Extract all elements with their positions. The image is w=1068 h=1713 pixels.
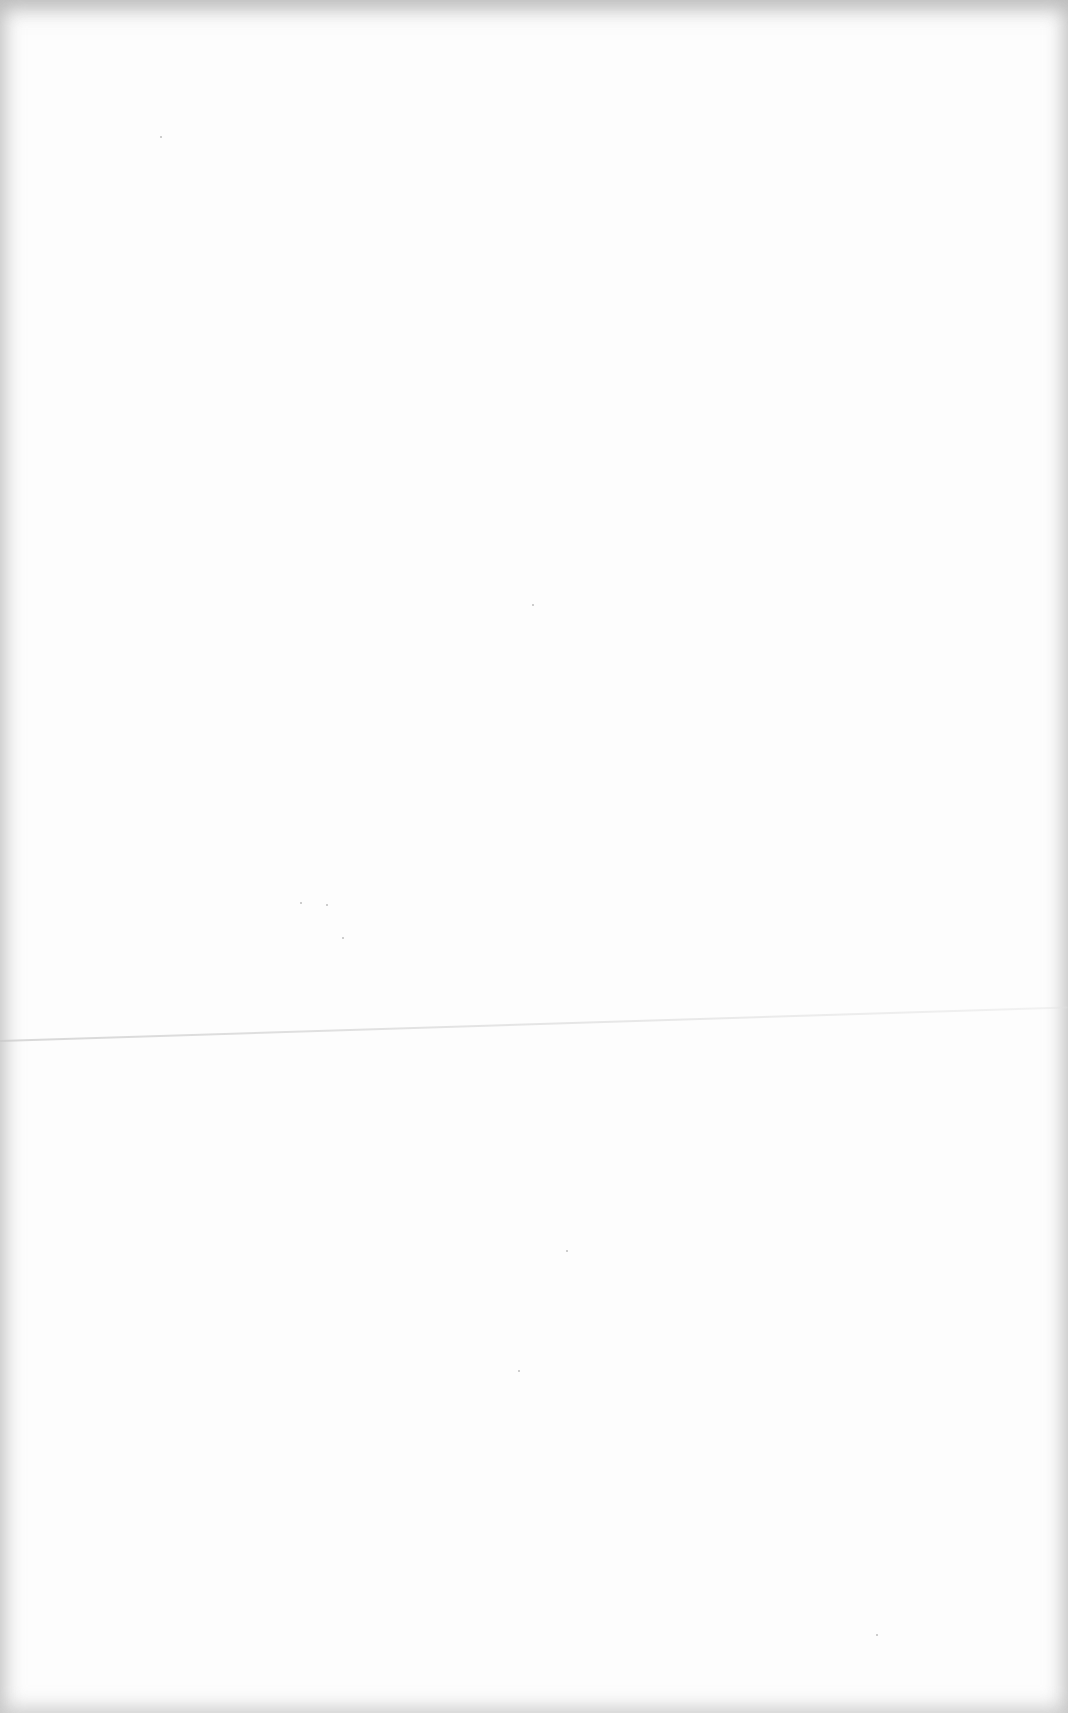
- fold-line: [0, 1006, 1068, 1042]
- speck: [300, 902, 302, 904]
- speck: [518, 1370, 520, 1372]
- speck: [326, 904, 328, 906]
- speck: [342, 937, 344, 939]
- speck: [532, 604, 534, 606]
- speck: [566, 1250, 568, 1252]
- speck: [876, 1634, 878, 1636]
- blank-page: [0, 0, 1068, 1713]
- speck: [160, 136, 162, 138]
